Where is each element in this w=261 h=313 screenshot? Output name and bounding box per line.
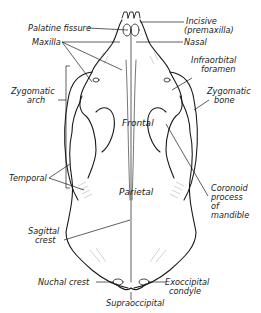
incisors bbox=[122, 12, 140, 18]
label-frontal: Frontal bbox=[122, 119, 154, 128]
label-incisive-line2: (premaxilla) bbox=[184, 26, 234, 35]
label-maxilla: Maxilla bbox=[32, 38, 61, 47]
zygomatic-arch-right bbox=[170, 72, 197, 200]
label-temporal: Temporal bbox=[9, 174, 47, 183]
label-infraorbital-line2: foramen bbox=[201, 65, 235, 74]
zygomatic-arch-left bbox=[65, 72, 92, 200]
skull-diagram: Palatine fissure Maxilla Zygomatic arch … bbox=[0, 0, 261, 313]
label-zygomatic-bone-line2: bone bbox=[214, 96, 234, 105]
label-parietal: Parietal bbox=[119, 188, 153, 197]
label-coronoid-line4: mandible bbox=[211, 211, 249, 220]
skull-outline-right bbox=[134, 20, 196, 288]
label-zygomatic-arch-line2: arch bbox=[27, 96, 45, 105]
label-palatine-fissure: Palatine fissure bbox=[28, 24, 91, 33]
label-nuchal-crest: Nuchal crest bbox=[38, 278, 89, 287]
label-nasal: Nasal bbox=[184, 38, 207, 47]
label-exoccipital-line2: condyle bbox=[169, 287, 201, 296]
label-sagittal-crest-line2: crest bbox=[35, 236, 55, 245]
label-supraoccipital: Supraoccipital bbox=[106, 299, 164, 308]
